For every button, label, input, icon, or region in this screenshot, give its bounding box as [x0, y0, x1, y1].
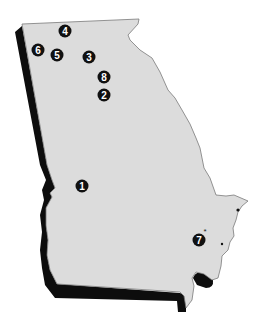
marker-4[interactable]: 4: [59, 25, 72, 38]
marker-3-label: 3: [86, 52, 92, 63]
marker-8[interactable]: 8: [98, 71, 111, 84]
marker-1[interactable]: 1: [76, 180, 89, 193]
marker-5[interactable]: 5: [51, 49, 64, 62]
marker-8-label: 8: [101, 72, 107, 83]
coast-dot: [221, 243, 223, 245]
marker-2-label: 2: [101, 90, 107, 101]
marker-2[interactable]: 2: [98, 89, 111, 102]
marker-5-label: 5: [54, 50, 60, 61]
state-shape: [22, 19, 248, 308]
coast-dot: [236, 208, 239, 211]
marker-1-label: 1: [79, 181, 85, 192]
marker-4-label: 4: [62, 26, 68, 37]
georgia-map: 1 2 3 4 5 6 7 8 *: [0, 0, 266, 331]
asterisk-annotation: *: [203, 227, 206, 236]
marker-6[interactable]: 6: [32, 44, 45, 57]
marker-3[interactable]: 3: [83, 51, 96, 64]
marker-7-label: 7: [196, 235, 202, 246]
marker-6-label: 6: [35, 45, 41, 56]
